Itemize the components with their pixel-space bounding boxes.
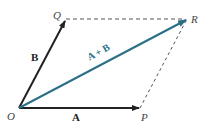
- vector-label-A: A: [72, 111, 80, 123]
- vector-label-sum: A + B: [85, 41, 112, 62]
- vector-sum-arrow: [19, 20, 186, 108]
- point-label-Q: Q: [53, 9, 61, 21]
- vector-parallelogram-diagram: O P Q R A B A + B: [0, 0, 209, 124]
- point-label-O: O: [7, 110, 15, 122]
- point-label-R: R: [190, 13, 198, 25]
- point-label-P: P: [140, 111, 148, 123]
- vector-label-B: B: [31, 51, 39, 63]
